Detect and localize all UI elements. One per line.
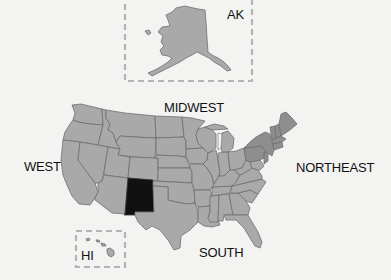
- state-colorado[interactable]: [128, 157, 158, 181]
- state-new-jersey[interactable]: [264, 152, 268, 164]
- state-nebraska[interactable]: [155, 155, 190, 168]
- state-arkansas[interactable]: [194, 190, 212, 207]
- region-label-south: SOUTH: [199, 245, 244, 260]
- region-label-midwest: MIDWEST: [164, 100, 224, 115]
- state-florida[interactable]: [224, 215, 262, 248]
- state-pennsylvania[interactable]: [244, 146, 266, 162]
- hawaii-label: HI: [81, 248, 94, 263]
- region-label-west: WEST: [24, 159, 61, 174]
- contiguous-us: [61, 104, 297, 250]
- region-label-northeast: NORTHEAST: [296, 160, 374, 175]
- state-south-dakota[interactable]: [156, 137, 186, 157]
- state-wyoming[interactable]: [116, 136, 156, 158]
- state-new-mexico[interactable]: [124, 178, 154, 215]
- state-iowa[interactable]: [186, 148, 208, 164]
- state-mississippi[interactable]: [208, 195, 219, 222]
- state-alaska[interactable]: [148, 6, 231, 76]
- us-regions-map: AK HI MIDWEST WEST NORTHEAST SOUTH: [0, 0, 391, 280]
- state-north-dakota[interactable]: [155, 116, 184, 138]
- map-svg: [0, 0, 391, 280]
- state-alaska-island: [145, 30, 151, 35]
- state-kansas[interactable]: [158, 168, 192, 183]
- state-maine[interactable]: [279, 112, 297, 136]
- alaska-label: AK: [227, 7, 244, 22]
